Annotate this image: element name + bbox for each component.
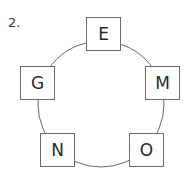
letter-box-left: G	[20, 66, 55, 100]
letter-n: N	[51, 140, 64, 160]
letter-m: M	[155, 73, 170, 93]
letter-box-top: E	[86, 17, 121, 51]
letter-box-bottom-left: N	[40, 133, 75, 167]
letter-box-bottom-right: O	[129, 133, 164, 167]
letter-g: G	[31, 73, 44, 93]
letter-box-right: M	[145, 66, 180, 100]
letter-o: O	[140, 140, 153, 160]
letter-e: E	[98, 24, 109, 44]
